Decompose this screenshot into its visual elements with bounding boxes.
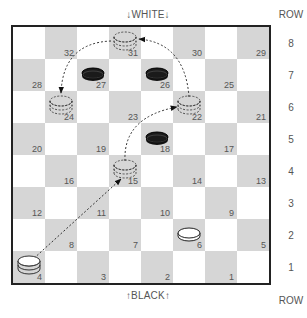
ghost-king-piece-15[interactable] (114, 160, 136, 178)
white-man-piece-6[interactable] (178, 228, 200, 241)
black-man-piece-18[interactable] (146, 132, 168, 145)
move-arrow-31-24 (61, 41, 111, 93)
ghost-king-piece-31[interactable] (114, 32, 136, 50)
ghost-king-piece-24[interactable] (50, 96, 72, 114)
move-overlay (0, 0, 307, 318)
ghost-king-piece-22[interactable] (178, 96, 200, 114)
white-king-piece-4[interactable] (18, 256, 40, 274)
move-arrow-22-31 (139, 39, 189, 97)
black-man-piece-26[interactable] (146, 68, 168, 81)
black-man-piece-27[interactable] (82, 68, 104, 81)
move-arrow-4-15 (31, 179, 121, 261)
